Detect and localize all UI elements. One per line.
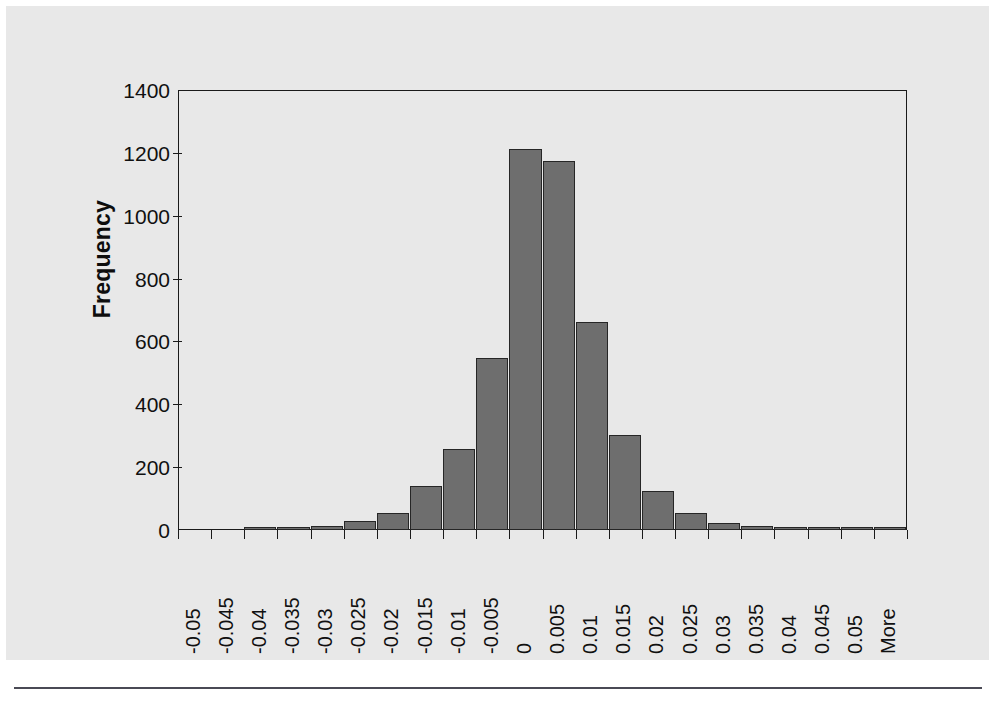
y-axis-tick-mark bbox=[173, 341, 182, 342]
histogram-bar bbox=[410, 486, 442, 530]
x-axis-tick-mark bbox=[244, 530, 245, 539]
x-axis-tick-mark bbox=[509, 530, 510, 539]
x-axis-tick-label: 0.02 bbox=[646, 534, 666, 654]
x-axis-tick-mark bbox=[410, 530, 411, 539]
x-axis-tick-label: 0.045 bbox=[812, 534, 832, 654]
x-axis-tick-mark bbox=[808, 530, 809, 539]
histogram-bar bbox=[675, 513, 707, 530]
x-axis-tick-label: -0.05 bbox=[183, 534, 203, 654]
y-axis-tick-label: 600 bbox=[106, 331, 170, 352]
x-axis-tick-labels: -0.05-0.045-0.04-0.035-0.03-0.025-0.02-0… bbox=[178, 534, 907, 654]
histogram-bar bbox=[344, 521, 376, 530]
x-axis-tick-label: 0.025 bbox=[680, 534, 700, 654]
x-axis-tick-label: -0.04 bbox=[249, 534, 269, 654]
x-axis-tick-label: 0.01 bbox=[580, 534, 600, 654]
x-axis-tick-mark bbox=[741, 530, 742, 539]
x-axis-tick-mark bbox=[609, 530, 610, 539]
histogram-bar bbox=[311, 526, 343, 530]
x-axis-tick-mark bbox=[443, 530, 444, 539]
y-axis-tick-mark bbox=[173, 153, 182, 154]
x-axis-tick-label: 0.03 bbox=[713, 534, 733, 654]
x-axis-tick-label: -0.035 bbox=[282, 534, 302, 654]
x-axis-tick-mark bbox=[543, 530, 544, 539]
y-axis-tick-label: 0 bbox=[106, 520, 170, 541]
y-axis-tick-labels: 0200400600800100012001400 bbox=[100, 90, 170, 530]
y-axis-tick-mark bbox=[173, 216, 182, 217]
y-axis-tick-label: 1400 bbox=[106, 80, 170, 101]
x-axis-tick-mark bbox=[642, 530, 643, 539]
x-axis-tick-mark bbox=[675, 530, 676, 539]
histogram-bar bbox=[708, 523, 740, 530]
y-axis-tick-label: 1200 bbox=[106, 142, 170, 163]
histogram-bar bbox=[443, 449, 475, 530]
histogram-bar bbox=[808, 527, 840, 530]
page-divider-rule bbox=[14, 687, 982, 689]
histogram-bar bbox=[841, 527, 873, 530]
plot-area bbox=[178, 90, 907, 530]
x-axis-tick-label: 0.05 bbox=[845, 534, 865, 654]
y-axis-tick-mark bbox=[173, 279, 182, 280]
histogram-bar bbox=[642, 491, 674, 530]
x-axis-tick-label: 0.035 bbox=[746, 534, 766, 654]
x-axis-tick-mark bbox=[874, 530, 875, 539]
histogram-bar bbox=[576, 322, 608, 530]
histogram-figure: Frequency 0200400600800100012001400 -0.0… bbox=[0, 0, 995, 660]
histogram-bar bbox=[509, 149, 541, 530]
x-axis-tick-mark bbox=[774, 530, 775, 539]
x-axis-tick-mark bbox=[708, 530, 709, 539]
x-axis-tick-label: -0.045 bbox=[216, 534, 236, 654]
x-axis-tick-mark bbox=[211, 530, 212, 539]
figure-page: Frequency 0200400600800100012001400 -0.0… bbox=[0, 0, 995, 703]
y-axis-tick-label: 800 bbox=[106, 268, 170, 289]
x-axis-tick-label: 0.005 bbox=[547, 534, 567, 654]
y-axis-tick-label: 200 bbox=[106, 457, 170, 478]
histogram-bar bbox=[609, 435, 641, 530]
y-axis-tick-label: 1000 bbox=[106, 205, 170, 226]
x-axis-tick-mark bbox=[907, 530, 908, 539]
histogram-bar bbox=[277, 527, 309, 530]
x-axis-tick-mark bbox=[277, 530, 278, 539]
x-axis-tick-label: -0.02 bbox=[381, 534, 401, 654]
histogram-bar bbox=[543, 161, 575, 530]
x-axis-tick-label: -0.005 bbox=[481, 534, 501, 654]
histogram-bar bbox=[741, 526, 773, 530]
y-axis-tick-mark bbox=[173, 467, 182, 468]
x-axis-tick-label: 0.015 bbox=[613, 534, 633, 654]
x-axis-tick-mark bbox=[311, 530, 312, 539]
x-axis-tick-mark bbox=[576, 530, 577, 539]
x-axis-tick-label: 0 bbox=[514, 534, 534, 654]
x-axis-tick-label: 0.04 bbox=[779, 534, 799, 654]
x-axis-tick-label: -0.015 bbox=[415, 534, 435, 654]
x-axis-tick-mark bbox=[476, 530, 477, 539]
x-axis-tick-mark bbox=[841, 530, 842, 539]
histogram-bar bbox=[774, 527, 806, 530]
x-axis-tick-mark bbox=[178, 530, 179, 539]
x-axis-tick-label: More bbox=[878, 534, 898, 654]
x-axis-tick-label: -0.01 bbox=[448, 534, 468, 654]
histogram-bar bbox=[476, 358, 508, 530]
histogram-bar bbox=[874, 527, 906, 530]
y-axis-tick-label: 400 bbox=[106, 394, 170, 415]
x-axis-tick-mark bbox=[377, 530, 378, 539]
y-axis-tick-mark bbox=[173, 404, 182, 405]
x-axis-tick-mark bbox=[344, 530, 345, 539]
x-axis-tick-label: -0.03 bbox=[315, 534, 335, 654]
histogram-bar bbox=[377, 513, 409, 530]
histogram-bar bbox=[244, 527, 276, 530]
x-axis-tick-label: -0.025 bbox=[348, 534, 368, 654]
